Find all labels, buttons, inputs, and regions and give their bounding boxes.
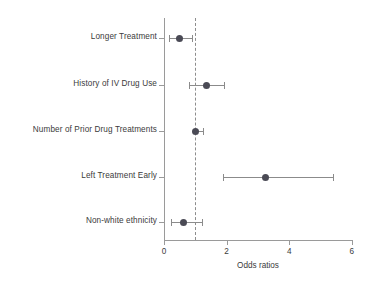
ci-cap-lower [189,82,190,89]
category-label: History of IV Drug Use [73,79,157,88]
ci-cap-lower [169,35,170,42]
ci-cap-upper [203,128,204,135]
y-axis-tick [159,85,164,86]
x-axis-tick-label: 6 [350,247,355,256]
x-axis-tick [164,240,165,245]
x-axis-line [164,240,352,241]
ci-cap-lower [223,174,224,181]
y-axis-tick [159,131,164,132]
odds-ratio-point [203,82,210,89]
odds-ratio-point [180,219,187,226]
x-axis-tick-label: 0 [162,247,167,256]
x-axis-tick [352,240,353,245]
ci-cap-lower [171,219,172,226]
ci-cap-upper [202,219,203,226]
x-axis-title: Odds ratios [237,261,279,270]
ci-cap-upper [224,82,225,89]
y-axis-tick [159,222,164,223]
y-axis-tick [159,38,164,39]
category-label: Number of Prior Drug Treatments [33,125,157,134]
x-axis-tick [227,240,228,245]
x-axis-tick-label: 2 [224,247,229,256]
category-label: Left Treatment Early [81,171,157,180]
category-label: Non-white ethnicity [86,216,157,225]
forest-plot: Longer TreatmentHistory of IV Drug UseNu… [0,0,374,281]
ci-cap-upper [333,174,334,181]
x-axis-tick [289,240,290,245]
ci-cap-upper [192,35,193,42]
odds-ratio-point [176,35,183,42]
odds-ratio-point [262,174,269,181]
confidence-interval-line [223,177,333,178]
category-label: Longer Treatment [91,32,157,41]
y-axis-tick [159,177,164,178]
y-axis-line [164,18,165,240]
odds-ratio-point [192,128,199,135]
x-axis-tick-label: 4 [287,247,292,256]
